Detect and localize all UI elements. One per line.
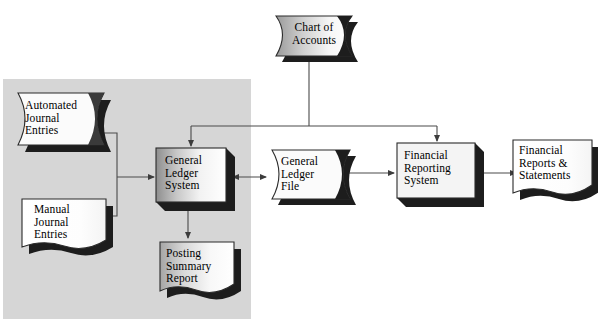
node-general-ledger-file[interactable]: [272, 150, 356, 205]
node-posting-summary-report[interactable]: [160, 242, 241, 299]
node-financial-reports-statements[interactable]: [513, 140, 598, 201]
flowchart-graphics: [0, 0, 598, 319]
node-financial-reporting-system[interactable]: [397, 143, 484, 207]
node-manual-journal-entries[interactable]: [22, 199, 113, 255]
flowchart-canvas: Chart of Accounts Automated Journal Entr…: [0, 0, 598, 319]
node-automated-journal-entries[interactable]: [18, 93, 111, 152]
node-general-ledger-system[interactable]: [156, 148, 235, 211]
node-chart-of-accounts[interactable]: [276, 16, 358, 62]
